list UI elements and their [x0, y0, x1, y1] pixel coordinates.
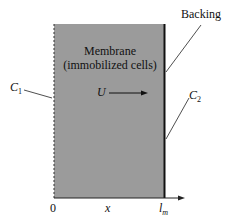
axis-end-label: lm	[159, 201, 168, 217]
backing-label: Backing	[181, 7, 221, 22]
x-axis-arrowhead-icon	[178, 196, 185, 201]
velocity-label: U	[97, 85, 106, 100]
membrane-label-line1: Membrane	[62, 44, 158, 58]
c1-label: C1	[10, 80, 22, 96]
backing-leader-line	[166, 25, 201, 72]
c1-leader-line	[24, 90, 52, 98]
c2-symbol: C	[189, 88, 197, 102]
axis-variable-label: x	[105, 201, 110, 216]
membrane-label-line2: (immobilized cells)	[62, 58, 158, 72]
diagram-canvas	[0, 0, 233, 224]
c2-subscript: 2	[197, 95, 201, 104]
c2-label: C2	[189, 88, 201, 104]
axis-origin-label: 0	[50, 201, 56, 216]
membrane-label: Membrane (immobilized cells)	[62, 44, 158, 72]
c2-leader-line	[166, 98, 189, 139]
c1-subscript: 1	[18, 87, 22, 96]
c1-symbol: C	[10, 80, 18, 94]
axis-end-subscript: m	[162, 208, 168, 217]
